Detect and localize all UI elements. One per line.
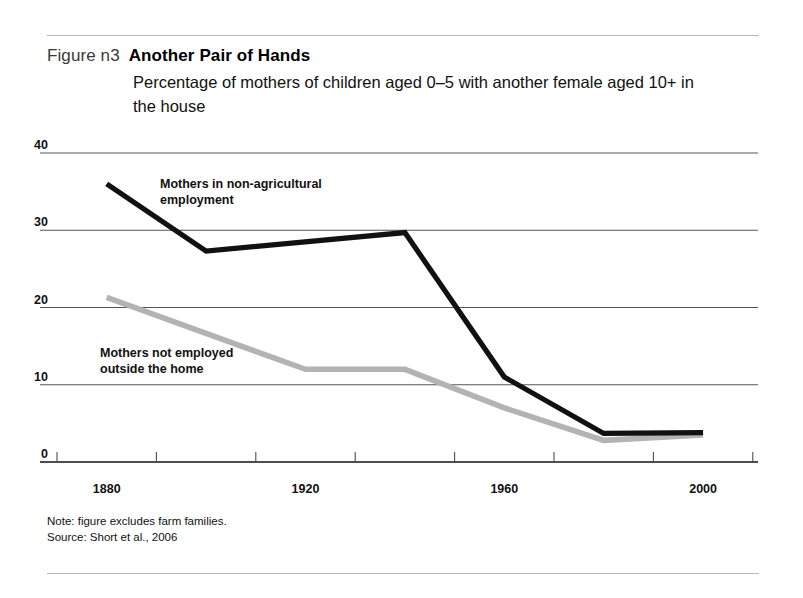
x-axis-label-1880: 1880 [77,482,137,496]
y-axis-label-40: 40 [22,138,48,152]
figure-notes: Note: figure excludes farm families. Sou… [47,514,227,545]
x-axis-label-1960: 1960 [474,482,534,496]
y-axis-label-0: 0 [22,447,48,461]
y-axis-label-20: 20 [22,293,48,307]
figure-note: Note: figure excludes farm families. [47,514,227,530]
bottom-divider-rule [47,573,759,574]
line-chart-plot [0,0,803,598]
y-axis-label-10: 10 [22,370,48,384]
y-axis-label-30: 30 [22,215,48,229]
x-axis-label-2000: 2000 [673,482,733,496]
x-axis-label-1920: 1920 [276,482,336,496]
series-annotation-not-employed: Mothers not employed outside the home [100,345,233,377]
figure-source: Source: Short et al., 2006 [47,530,227,546]
series-line-non-agricultural [107,184,703,434]
series-annotation-non-agricultural: Mothers in non-agricultural employment [160,176,322,208]
